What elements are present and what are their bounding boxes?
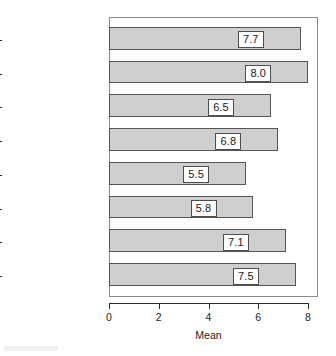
bar-value-label: 5.8 <box>191 200 217 217</box>
bar-row: 6.8Production speed <box>0 124 336 158</box>
bar-row: 7.7Ref standard <box>0 23 336 57</box>
bar-row: 5.5Physical quality <box>0 158 336 192</box>
bar-value-label: 6.5 <box>208 99 234 116</box>
bar <box>109 263 296 286</box>
x-axis-tick-label: 6 <box>248 311 268 323</box>
x-axis-tick-label: 2 <box>149 311 169 323</box>
x-axis-tick-label: 0 <box>99 311 119 323</box>
bar-value-label: 7.5 <box>233 268 259 285</box>
category-tick <box>0 276 2 277</box>
bar-value-label: 6.8 <box>215 133 241 150</box>
bar-value-label: 7.7 <box>238 31 264 48</box>
bar-value-label: 5.5 <box>183 166 209 183</box>
bar <box>109 229 286 252</box>
x-axis-tick <box>109 303 110 309</box>
x-axis-tick-label: 4 <box>199 311 219 323</box>
bar-row: 6.5Editor/board <box>0 90 336 124</box>
bar <box>109 27 301 50</box>
x-axis-tick <box>159 303 160 309</box>
category-tick <box>0 141 2 142</box>
x-axis-tick <box>258 303 259 309</box>
bar <box>109 162 246 185</box>
bar <box>109 128 278 151</box>
category-tick <box>0 209 2 210</box>
x-axis-tick <box>308 303 309 309</box>
bar <box>109 196 253 219</box>
bar-row: 7.5Reputation <box>0 259 336 293</box>
bar-chart-figure: 7.7Ref standard8.0Refereeing speed6.5Edi… <box>0 0 336 356</box>
x-axis-title: Mean <box>109 329 308 341</box>
bar-value-label: 8.0 <box>245 65 271 82</box>
bar <box>109 61 308 84</box>
category-tick <box>0 242 2 243</box>
scan-artifact <box>4 346 58 351</box>
category-tick <box>0 107 2 108</box>
x-axis-tick-label: 8 <box>298 311 318 323</box>
bar <box>109 94 271 117</box>
bar-row: 8.0Refereeing speed <box>0 57 336 91</box>
bar-row: 7.1Impact factor <box>0 225 336 259</box>
bar-value-label: 7.1 <box>223 234 249 251</box>
category-tick <box>0 175 2 176</box>
bar-row: 5.8Publ services <box>0 192 336 226</box>
category-tick <box>0 40 2 41</box>
category-tick <box>0 74 2 75</box>
x-axis-tick <box>209 303 210 309</box>
